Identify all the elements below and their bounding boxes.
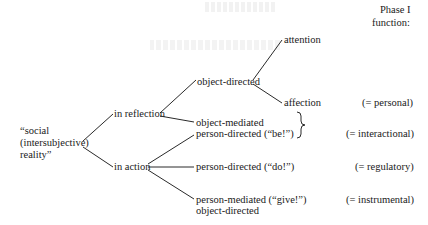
node-in-action: in action — [114, 161, 150, 172]
function-personal: (= personal) — [362, 97, 413, 108]
node-object-mediated: object-mediated — [196, 117, 264, 128]
phase-heading-line2: function: — [372, 17, 410, 28]
root-node-line3: reality” — [20, 149, 51, 160]
function-interactional: (= interactional) — [346, 128, 414, 139]
root-node-line1: “social — [20, 125, 49, 136]
node-object-directed-action: object-directed — [196, 205, 259, 216]
node-person-mediated-give: person-mediated (“give!”) — [196, 194, 307, 205]
node-object-directed: object-directed — [197, 76, 260, 87]
function-regulatory: (= regulatory) — [355, 161, 414, 172]
phase-heading-line1: Phase I — [380, 4, 411, 15]
root-node-line2: (intersubjective) — [20, 137, 89, 148]
tree-connector-lines — [0, 0, 428, 225]
node-in-reflection: in reflection — [114, 108, 165, 119]
node-person-directed-be: person-directed (“be!”) — [196, 128, 294, 139]
function-instrumental: (= instrumental) — [346, 194, 414, 205]
node-attention: attention — [284, 34, 321, 45]
node-affection: affection — [284, 97, 321, 108]
node-person-directed-do: person-directed (“do!”) — [196, 161, 294, 172]
